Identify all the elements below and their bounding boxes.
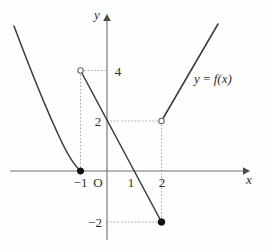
y-axis-arrow	[103, 14, 111, 21]
marker-filled-2-neg2	[158, 219, 165, 226]
function-label: y = f(x)	[192, 71, 232, 86]
axes	[10, 14, 250, 240]
graph-canvas: −1 1 2 4 2 −2 O x y y = f(x)	[0, 0, 266, 252]
x-axis-label: x	[245, 172, 252, 187]
y-tick-label-4: 4	[115, 64, 122, 79]
x-tick-label-1: 1	[128, 175, 135, 190]
function-curves	[14, 24, 218, 222]
x-tick-label-neg1: −1	[74, 175, 88, 190]
y-tick-label-neg2: −2	[88, 215, 102, 230]
marker-open-neg1-4	[78, 68, 83, 73]
descending-segment	[81, 71, 162, 223]
function-graph-figure: −1 1 2 4 2 −2 O x y y = f(x)	[0, 0, 266, 252]
origin-label: O	[93, 175, 102, 190]
parabola-branch	[14, 26, 81, 171]
marker-filled-neg1-0	[77, 168, 83, 174]
tick-labels: −1 1 2 4 2 −2 O	[74, 64, 166, 231]
axis-names: x y	[92, 7, 252, 187]
y-tick-label-2: 2	[95, 114, 102, 129]
y-axis-label: y	[92, 7, 100, 22]
marker-open-2-2	[159, 118, 164, 123]
x-tick-label-2: 2	[159, 175, 166, 190]
